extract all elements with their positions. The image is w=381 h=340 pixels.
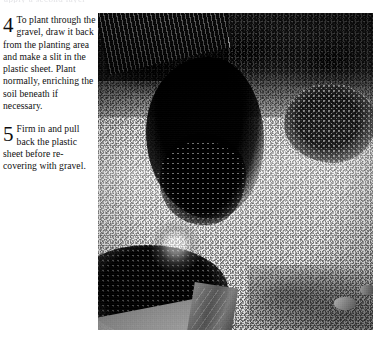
clipped-scan-line: apply a second layer bbox=[4, 0, 154, 3]
step-4-number: 4 bbox=[3, 15, 14, 35]
step-5-text: 5Firm in and pull back the plastic sheet… bbox=[3, 123, 96, 172]
garden-photograph bbox=[98, 13, 373, 330]
step-5-number: 5 bbox=[3, 124, 14, 144]
photo-halftone bbox=[98, 13, 373, 330]
step-4-text: 4To plant through the gravel, draw it ba… bbox=[3, 14, 96, 112]
instruction-text-column: 4To plant through the gravel, draw it ba… bbox=[0, 14, 96, 184]
step-4: 4To plant through the gravel, draw it ba… bbox=[0, 14, 96, 112]
document-page: apply a second layer 4To plant through t… bbox=[0, 0, 381, 340]
step-4-lead: To plant bbox=[17, 14, 49, 25]
step-4-body: through the gravel, draw it back from th… bbox=[3, 14, 96, 111]
step-5: 5Firm in and pull back the plastic sheet… bbox=[0, 123, 96, 172]
step-5-lead: Firm in and bbox=[17, 123, 62, 134]
